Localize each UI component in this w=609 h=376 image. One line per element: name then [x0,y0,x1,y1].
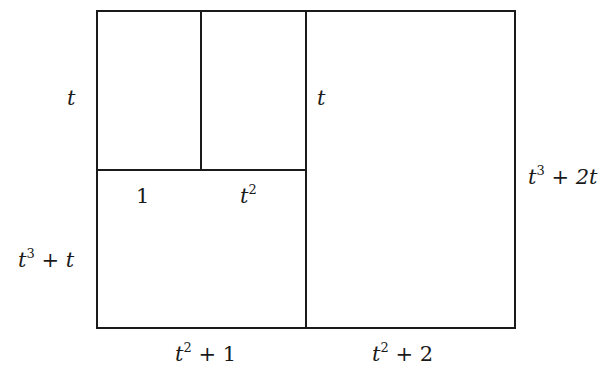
outer-right-edge [514,10,516,329]
label-right: t3 + 2t [528,167,597,188]
label-inner-middle: t [317,88,325,109]
label-bottom-left: t2 + 1 [175,344,236,365]
label-left-bottom: t3 + t [18,250,74,271]
label-inner-bottom-t2: t2 [240,186,257,207]
area-diagram: t t 1 t2 t3 + t t3 + 2t t2 + 1 t2 + 2 [0,0,609,376]
label-inner-bottom-1: 1 [136,186,149,207]
label-bottom-right: t2 + 2 [372,344,433,365]
left-horizontal-divider [96,169,306,171]
label-left-top: t [67,88,75,109]
top-left-vertical-divider [200,10,202,171]
